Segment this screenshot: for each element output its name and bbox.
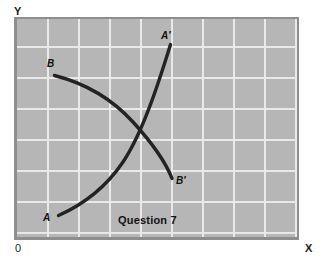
grid-line-horizontal <box>17 139 297 141</box>
grid-line-vertical <box>109 19 111 237</box>
grid-line-horizontal <box>17 46 297 48</box>
grid-line-vertical <box>140 19 142 237</box>
grid-line-vertical <box>78 19 80 237</box>
grid-line-vertical <box>233 19 235 237</box>
point-label-b-prime: B′ <box>176 176 186 186</box>
point-label-a: A <box>43 213 50 223</box>
figure-caption: Question 7 <box>118 214 177 226</box>
grid-line-vertical <box>47 19 49 237</box>
y-axis-label: Y <box>14 6 21 17</box>
grid-line-vertical <box>171 19 173 237</box>
x-axis-label: X <box>305 243 312 254</box>
figure-container: Y 0 X A A′ B B′ Question 7 <box>0 0 321 260</box>
grid-line-horizontal <box>17 77 297 79</box>
grid-line-horizontal <box>17 170 297 172</box>
origin-label: 0 <box>15 243 21 254</box>
grid-line-horizontal <box>17 232 297 234</box>
grid-line-horizontal <box>17 201 297 203</box>
point-label-b: B <box>47 59 54 69</box>
point-label-a-prime: A′ <box>161 31 171 41</box>
grid-line-vertical <box>295 19 297 237</box>
grid-line-horizontal <box>17 108 297 110</box>
grid-line-vertical <box>202 19 204 237</box>
grid-line-vertical <box>264 19 266 237</box>
plot-area <box>17 19 297 237</box>
